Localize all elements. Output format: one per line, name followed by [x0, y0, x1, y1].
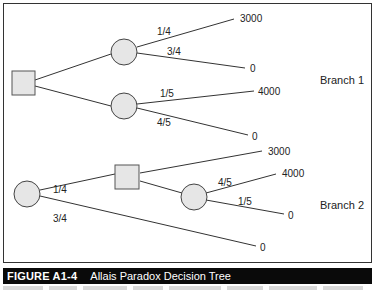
probability-label: 1/4 [53, 184, 67, 195]
decision-node-square [12, 71, 35, 95]
branch-label: Branch 2 [320, 199, 364, 211]
payoff-label: 0 [252, 131, 258, 142]
figure-number: FIGURE A1-4 [7, 270, 77, 282]
payoff-label: 0 [288, 210, 294, 221]
probability-label: 3/4 [53, 213, 67, 224]
branch-label: Branch 1 [320, 74, 364, 86]
payoff-label: 0 [250, 63, 256, 74]
cut-off-text-row [3, 286, 372, 292]
probability-label: 3/4 [167, 46, 181, 57]
chance-node-circle [111, 39, 137, 65]
payoff-label: 0 [260, 242, 266, 253]
chance-node-circle [14, 181, 40, 207]
probability-label: 1/5 [160, 88, 174, 99]
decision-tree-diagram: 1/4 3/4 1/5 4/5 3000 0 4000 0 Branch 1 1… [0, 0, 379, 268]
payoff-label: 3000 [240, 13, 263, 24]
chance-node-circle [181, 184, 207, 210]
figure-caption: FIGURE A1-4 Allais Paradox Decision Tree [3, 268, 372, 284]
payoff-label: 4000 [258, 86, 281, 97]
probability-label: 1/5 [238, 196, 252, 207]
probability-label: 1/4 [157, 26, 171, 37]
payoff-label: 3000 [268, 146, 291, 157]
payoff-label: 4000 [282, 168, 305, 179]
figure-title: Allais Paradox Decision Tree [90, 270, 231, 282]
probability-label: 4/5 [218, 177, 232, 188]
probability-label: 4/5 [157, 117, 171, 128]
decision-node-square [115, 165, 139, 189]
chance-node-circle [111, 93, 137, 119]
